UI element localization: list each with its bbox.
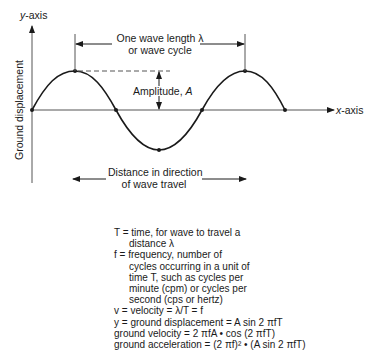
amplitude-label: Amplitude, A	[133, 85, 193, 97]
wavelength-label-line1: One wave length λ	[115, 32, 205, 44]
y-axis-label: y-axis	[20, 9, 47, 21]
x-axis-label: x-axis	[336, 104, 363, 116]
legend-line: T = time, for wave to travel a	[114, 227, 306, 238]
legend-line: cycles occurring in a unit of	[114, 261, 306, 272]
direction-label-line2: of wave travel	[108, 178, 200, 190]
legend-line: time T, such as cycles per	[114, 272, 306, 283]
legend-line: f = frequency, number of	[114, 249, 306, 260]
formula-legend: T = time, for wave to travel a distance …	[114, 227, 306, 350]
wavelength-label-line2: or wave cycle	[115, 44, 205, 56]
legend-line: second (cps or hertz)	[114, 294, 306, 305]
legend-line: minute (cpm) or cycles per	[114, 283, 306, 294]
direction-label: Distance in direction of wave travel	[108, 166, 200, 190]
legend-line: ground velocity = 2 πfA • cos (2 πfT)	[114, 328, 306, 339]
wavelength-label: One wave length λ or wave cycle	[115, 32, 205, 56]
legend-line: distance λ	[114, 238, 306, 249]
vertical-axis-label: Ground displacement	[13, 55, 25, 165]
direction-label-line1: Distance in direction	[108, 166, 200, 178]
legend-line: v = velocity = λ/T = f	[114, 305, 306, 316]
legend-line: y = ground displacement = A sin 2 πfT	[114, 317, 306, 328]
legend-line: ground acceleration = (2 πf)² • (A sin 2…	[114, 339, 306, 350]
